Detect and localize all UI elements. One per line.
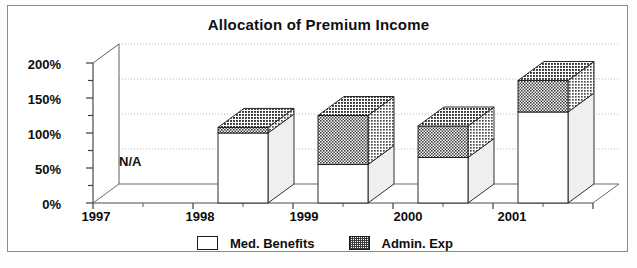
- y-tick-label-200: 200%: [3, 57, 61, 72]
- bar-2000: [418, 107, 494, 203]
- x-tick-label-2001: 2001: [472, 209, 552, 224]
- bar-1999: [318, 97, 394, 204]
- na-annotation: N/A: [119, 154, 141, 169]
- x-tick-label-1997: 1997: [56, 209, 136, 224]
- legend-label-med-benefits: Med. Benefits: [230, 236, 315, 251]
- x-tick-label-1998: 1998: [160, 209, 240, 224]
- y-tick-label-50: 50%: [3, 162, 61, 177]
- bar-1998: [218, 108, 294, 203]
- x-tick-label-2000: 2000: [368, 209, 448, 224]
- y-tick-label-150: 150%: [3, 92, 61, 107]
- chart-frame: Allocation of Premium Income 200% 150% 1…: [7, 5, 628, 252]
- legend-item-med-benefits: Med. Benefits: [197, 236, 315, 251]
- legend-swatch-med-benefits: [197, 236, 218, 250]
- x-tick-label-1999: 1999: [264, 209, 344, 224]
- legend-label-admin-exp: Admin. Exp: [382, 236, 454, 251]
- y-tick-label-100: 100%: [3, 127, 61, 142]
- bar-2001: [518, 62, 594, 204]
- legend-swatch-admin-exp: [349, 236, 370, 250]
- y-tick-label-0: 0%: [3, 197, 61, 212]
- legend-item-admin-exp: Admin. Exp: [349, 236, 454, 251]
- chart-screenshot: Allocation of Premium Income 200% 150% 1…: [0, 0, 637, 268]
- chart-legend: Med. Benefits Admin. Exp: [120, 230, 530, 256]
